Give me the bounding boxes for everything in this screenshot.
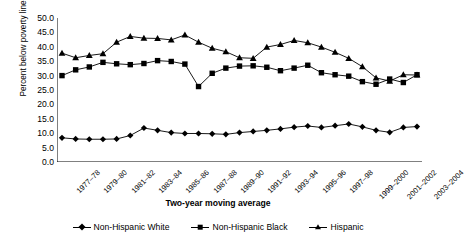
legend-label: Non-Hispanic Black bbox=[212, 222, 287, 232]
x-tick-label: 1993–94 bbox=[293, 168, 320, 195]
x-tick-label: 1997–98 bbox=[348, 168, 375, 195]
chart-legend: Non-Hispanic WhiteNon-Hispanic BlackHisp… bbox=[0, 222, 436, 232]
x-tick-label: 1987–88 bbox=[211, 168, 238, 195]
legend-item: Non-Hispanic Black bbox=[191, 222, 287, 232]
legend-marker-diamond-icon bbox=[73, 223, 91, 232]
x-tick-label: 1995–96 bbox=[320, 168, 347, 195]
x-tick-label: 1991–92 bbox=[266, 168, 293, 195]
x-tick-label: 1981–82 bbox=[129, 168, 156, 195]
legend-marker-triangle-icon bbox=[309, 223, 327, 232]
x-tick-label: 1977–78 bbox=[75, 168, 102, 195]
legend-item: Hispanic bbox=[309, 222, 363, 232]
legend-marker-square-icon bbox=[191, 223, 209, 232]
x-tick-label: 1983–84 bbox=[157, 168, 184, 195]
legend-label: Hispanic bbox=[330, 222, 363, 232]
x-tick-label: 1989–90 bbox=[239, 168, 266, 195]
legend-label: Non-Hispanic White bbox=[94, 222, 170, 232]
x-tick-label: 1985–86 bbox=[184, 168, 211, 195]
x-tick-label: 1979–80 bbox=[102, 168, 129, 195]
x-axis-title: Two-year moving average bbox=[0, 198, 436, 208]
legend-item: Non-Hispanic White bbox=[73, 222, 170, 232]
